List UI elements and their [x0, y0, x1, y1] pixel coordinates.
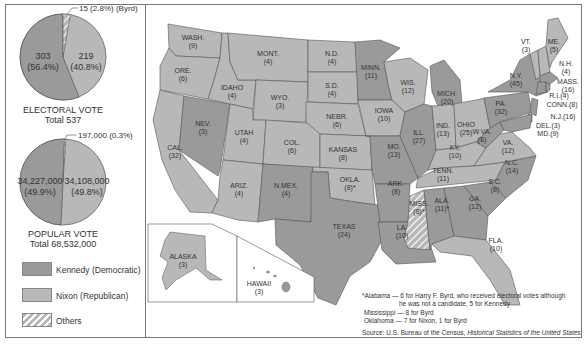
svg-text:KANSAS: KANSAS — [329, 146, 358, 153]
svg-text:(32): (32) — [169, 152, 181, 160]
svg-text:(13): (13) — [388, 151, 400, 159]
svg-text:(11): (11) — [437, 175, 449, 183]
svg-text:MISS.: MISS. — [409, 200, 428, 207]
svg-text:(3): (3) — [522, 46, 531, 54]
nixon-electoral-pct: (40.8%) — [70, 62, 102, 72]
svg-text:OHIO: OHIO — [457, 121, 475, 128]
svg-text:TENN.: TENN. — [433, 167, 454, 174]
svg-text:ARK.: ARK. — [388, 180, 404, 187]
svg-text:FLA.: FLA. — [489, 237, 504, 244]
svg-text:(11): (11) — [365, 72, 377, 80]
nixon-popular-pct: (49.8%) — [71, 187, 103, 197]
svg-text:N.H.: N.H. — [559, 60, 573, 67]
svg-text:(8): (8) — [392, 188, 401, 196]
svg-text:(11)*: (11)* — [435, 205, 450, 213]
svg-text:CONN.(8): CONN.(8) — [546, 101, 577, 109]
svg-text:VT.: VT. — [521, 38, 531, 45]
svg-text:S.C.: S.C. — [488, 178, 502, 185]
svg-text:MO.: MO. — [387, 143, 400, 150]
popular-vote-pie: 197,000 (0.3%) 34,227,000 (49.9%) 34,108… — [17, 131, 133, 249]
state-wash — [168, 24, 222, 58]
svg-text:TEXAS: TEXAS — [333, 223, 356, 230]
svg-text:(25): (25) — [460, 129, 472, 137]
kennedy-popular-pct: (49.9%) — [24, 187, 56, 197]
state-nj — [530, 98, 538, 116]
svg-text:(8): (8) — [339, 154, 348, 162]
svg-text:W.VA.: W.VA. — [473, 128, 492, 135]
svg-text:N.Y.: N.Y. — [510, 72, 523, 79]
svg-text:(3): (3) — [276, 102, 285, 110]
svg-text:(20): (20) — [441, 98, 453, 106]
svg-text:(8)*: (8)* — [344, 184, 356, 192]
svg-text:N.C.: N.C. — [505, 159, 519, 166]
source-title: Historical Statistics of the United Stat… — [467, 329, 580, 336]
electoral-vote-pie: 15 (2.8%) (Byrd) 303 (56.4%) 219 (40.8%)… — [20, 4, 138, 125]
source-citation: Source: U.S. Bureau of the Census, Histo… — [362, 329, 581, 336]
svg-text:(10): (10) — [490, 245, 502, 253]
nixon-popular-value: 34,108,000 — [64, 176, 109, 186]
kennedy-electoral-pct: (56.4%) — [27, 62, 59, 72]
svg-text:ORE.: ORE. — [174, 67, 191, 74]
svg-text:(4): (4) — [282, 190, 291, 198]
svg-text:(32): (32) — [495, 108, 507, 116]
svg-text:IND.: IND. — [436, 122, 450, 129]
legend-others-label: Others — [56, 316, 82, 326]
svg-text:(8): (8) — [491, 186, 500, 194]
svg-text:(8)*: (8)* — [413, 208, 425, 216]
svg-text:COL.: COL. — [284, 139, 300, 146]
svg-text:MONT.: MONT. — [257, 50, 279, 57]
svg-text:(14): (14) — [506, 167, 518, 175]
legend-kennedy-swatch — [22, 262, 52, 276]
svg-text:(4): (4) — [562, 68, 571, 76]
svg-text:WIS.: WIS. — [400, 79, 415, 86]
state-ri — [546, 82, 550, 92]
svg-text:CAL.: CAL. — [167, 144, 183, 151]
svg-text:N.J.(16): N.J.(16) — [551, 113, 576, 121]
svg-text:(6): (6) — [288, 147, 297, 155]
svg-text:(4): (4) — [328, 58, 337, 66]
svg-text:IOWA: IOWA — [375, 107, 394, 114]
state-conn — [536, 82, 546, 94]
svg-text:R.I.(4): R.I.(4) — [549, 92, 568, 100]
kennedy-electoral-value: 303 — [35, 51, 50, 61]
svg-text:(45): (45) — [510, 80, 522, 88]
svg-text:(4): (4) — [228, 92, 237, 100]
svg-text:(10): (10) — [378, 115, 390, 123]
svg-text:LA.: LA. — [397, 224, 408, 231]
svg-text:MINN.: MINN. — [361, 64, 381, 71]
svg-text:(6): (6) — [179, 75, 188, 83]
svg-text:UTAH: UTAH — [235, 129, 254, 136]
nixon-electoral-value: 219 — [78, 51, 93, 61]
svg-text:(3): (3) — [255, 288, 264, 296]
svg-text:NEV.: NEV. — [195, 120, 211, 127]
svg-text:KY.: KY. — [450, 144, 460, 151]
legend-kennedy-label: Kennedy (Democratic) — [56, 265, 141, 275]
electoral-vote-total: Total 537 — [45, 115, 82, 125]
legend-nixon-swatch — [22, 288, 52, 302]
svg-text:(3): (3) — [199, 128, 208, 136]
svg-text:PA.: PA. — [496, 100, 507, 107]
svg-text:(4): (4) — [264, 58, 273, 66]
svg-text:MASS.: MASS. — [557, 78, 579, 85]
electoral-vote-title: ELECTORAL VOTE — [23, 105, 103, 115]
svg-text:N.D.: N.D. — [325, 50, 339, 57]
footnote-alabama-cont: he was not a candidate, 5 for Kennedy — [399, 300, 510, 309]
others-popular-label: 197,000 (0.3%) — [78, 131, 133, 140]
svg-text:(12): (12) — [402, 87, 414, 95]
popular-vote-title: POPULAR VOTE — [28, 229, 98, 239]
popular-vote-total: Total 68,532,000 — [30, 239, 97, 249]
svg-text:(27): (27) — [413, 137, 425, 145]
legend-others-swatch — [22, 313, 52, 327]
svg-text:(24): (24) — [338, 231, 350, 239]
svg-text:(4): (4) — [240, 137, 249, 145]
source-prefix: Source: U.S. Bureau of the Census, — [362, 329, 467, 336]
svg-text:(8): (8) — [478, 136, 487, 144]
svg-text:NEBR.: NEBR. — [326, 113, 347, 120]
svg-text:VA.: VA. — [503, 139, 514, 146]
svg-text:(6): (6) — [333, 121, 342, 129]
svg-text:ME.: ME. — [548, 38, 561, 45]
svg-text:ARIZ.: ARIZ. — [230, 182, 248, 189]
svg-text:MD.(9): MD.(9) — [537, 130, 558, 138]
svg-text:WYO.: WYO. — [271, 94, 290, 101]
svg-text:(12): (12) — [502, 147, 514, 155]
